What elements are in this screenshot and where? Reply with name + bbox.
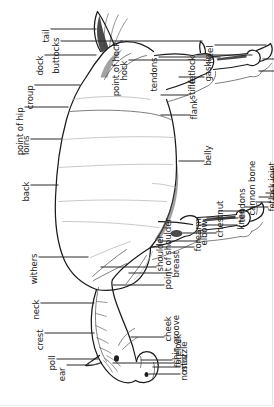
leader-stifle [160, 94, 188, 95]
diagram-plate: point of hip croup dock tail buttocks lo… [0, 0, 274, 407]
leader-flank [160, 114, 190, 115]
label-forelock: forelock [174, 334, 183, 367]
label-cannon-bone: cannon bone [248, 160, 257, 215]
label-withers: withers [30, 253, 39, 284]
label-buttocks: buttocks [52, 37, 61, 73]
leader-loins [30, 138, 62, 139]
leader-belly [178, 160, 204, 161]
label-belly: belly [204, 145, 213, 165]
leader-nostril [148, 373, 180, 374]
label-croup: croup [26, 85, 35, 109]
leader-point-of-hock [120, 40, 202, 41]
leader-crest [44, 332, 94, 333]
leader-tail [50, 28, 96, 29]
leader-poll [56, 358, 98, 359]
leader-croup [34, 84, 80, 85]
label-hoof: hoof [272, 166, 274, 185]
leader-point-of-shoulder [112, 284, 164, 285]
label-neck: neck [32, 299, 41, 319]
horse-points-diagram: point of hip croup dock tail buttocks lo… [0, 0, 274, 407]
leader-coronet-hind [262, 58, 274, 59]
label-loins: loins [22, 135, 31, 154]
label-tail: tail [42, 29, 51, 42]
label-dock: dock [36, 55, 45, 75]
label-tendons-hind: tendons [150, 57, 159, 91]
label-flank: flank [190, 98, 199, 119]
leader-heel-hind [214, 44, 266, 45]
label-stifle: stifle [188, 79, 197, 99]
leader-withers [38, 256, 88, 257]
label-hock: hock [120, 60, 129, 80]
label-ear: ear [58, 367, 67, 381]
label-back: back [22, 181, 31, 201]
label-forearm: forearm [194, 218, 203, 251]
leader-forelock [112, 362, 174, 363]
label-chestnut: chestnut [216, 200, 225, 237]
label-cheek: cheek [164, 316, 173, 341]
leader-back [30, 184, 58, 185]
leader-neck [40, 302, 94, 303]
label-gaskin: gaskin [204, 54, 213, 81]
leader-ear [66, 364, 88, 365]
label-crest: crest [36, 329, 45, 350]
label-shoulder: shoulder [156, 235, 165, 272]
leader-pastern [258, 70, 274, 71]
label-poll: poll [48, 355, 57, 370]
label-knee: knee [237, 208, 246, 229]
leader-shoulder [100, 266, 156, 267]
leader-chin-groove [140, 359, 172, 360]
leader-cheek [130, 336, 164, 337]
